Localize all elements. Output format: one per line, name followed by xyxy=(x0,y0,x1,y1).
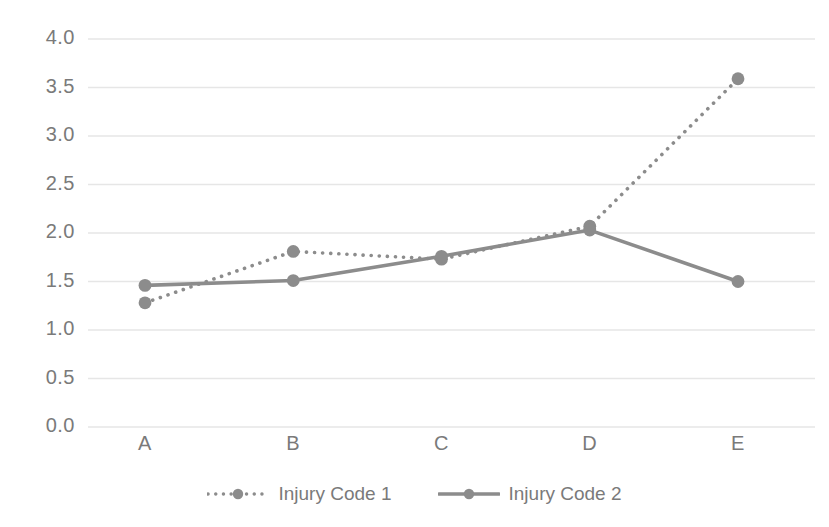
legend-item-injury-code-1[interactable]: Injury Code 1 xyxy=(207,483,391,505)
series-line-1 xyxy=(145,79,738,303)
data-point-marker xyxy=(139,296,152,309)
line-chart: 0.00.51.01.52.02.53.03.54.0 ABCDE Injury… xyxy=(0,0,829,527)
gridlines xyxy=(88,39,815,427)
y-axis-tick-label: 0.5 xyxy=(15,366,75,389)
data-point-marker xyxy=(287,245,300,258)
data-point-marker xyxy=(583,224,596,237)
y-axis-tick-label: 3.5 xyxy=(15,75,75,98)
legend-item-injury-code-2[interactable]: Injury Code 2 xyxy=(438,483,622,505)
x-axis-tick-label: B xyxy=(273,432,313,455)
legend-label-injury-code-1: Injury Code 1 xyxy=(278,483,391,505)
y-axis-tick-label: 0.0 xyxy=(15,414,75,437)
legend-marker-dotted-icon xyxy=(207,485,269,503)
y-axis-tick-label: 3.0 xyxy=(15,123,75,146)
x-axis-tick-label: A xyxy=(125,432,165,455)
data-point-marker xyxy=(139,279,152,292)
data-point-marker xyxy=(732,72,745,85)
legend-label-injury-code-2: Injury Code 2 xyxy=(509,483,622,505)
y-axis-tick-label: 2.5 xyxy=(15,172,75,195)
data-point-marker xyxy=(287,274,300,287)
y-axis-tick-label: 2.0 xyxy=(15,220,75,243)
y-axis-tick-label: 1.0 xyxy=(15,317,75,340)
x-axis-tick-label: D xyxy=(570,432,610,455)
series-layer xyxy=(139,72,745,309)
x-axis-tick-label: E xyxy=(718,432,758,455)
x-axis-tick-label: C xyxy=(422,432,462,455)
y-axis-tick-label: 1.5 xyxy=(15,269,75,292)
legend-marker-solid-icon xyxy=(438,485,500,503)
y-axis-tick-label: 4.0 xyxy=(15,26,75,49)
data-point-marker xyxy=(732,275,745,288)
chart-legend: Injury Code 1 Injury Code 2 xyxy=(0,477,829,511)
data-point-marker xyxy=(435,250,448,263)
